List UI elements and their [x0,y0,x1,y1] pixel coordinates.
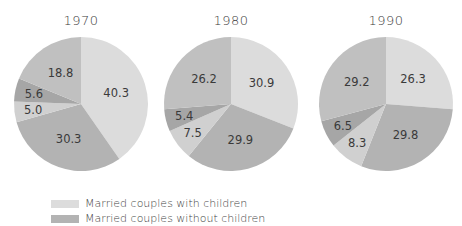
slice-value-label: 5.0 [24,103,42,117]
slice-value-label: 18.8 [48,66,74,80]
pie-graphic: 30.929.97.55.426.2 [156,0,306,180]
legend-item-with-children: Married couples with children [51,196,265,211]
legend-label: Married couples with children [85,197,247,210]
pie-graphic: 40.330.35.05.618.8 [6,0,156,180]
slice-value-label: 5.6 [25,87,43,101]
chart-legend: Married couples with children Married co… [51,196,265,226]
pie-chart-1980: 1980 30.929.97.55.426.2 [156,0,306,180]
pie-chart-1990: 1990 26.329.88.36.529.2 [311,0,461,180]
slice-value-label: 6.5 [334,119,352,133]
slice-value-label: 5.4 [175,109,193,123]
legend-swatch [51,200,79,208]
slice-value-label: 40.3 [103,86,129,100]
slice-value-label: 8.3 [348,136,366,150]
legend-swatch [51,215,79,223]
slice-value-label: 30.9 [249,76,275,90]
slice-value-label: 7.5 [184,126,202,140]
legend-label: Married couples without children [85,212,265,225]
pie-chart-1970: 1970 40.330.35.05.618.8 [6,0,156,180]
slice-value-label: 29.8 [393,128,419,142]
slice-value-label: 26.2 [191,72,217,86]
legend-item-without-children: Married couples without children [51,211,265,226]
slice-value-label: 26.3 [400,72,426,86]
slice-value-label: 29.2 [344,75,370,89]
slice-value-label: 30.3 [56,132,82,146]
pie-graphic: 26.329.88.36.529.2 [311,0,461,180]
slice-value-label: 29.9 [228,133,254,147]
